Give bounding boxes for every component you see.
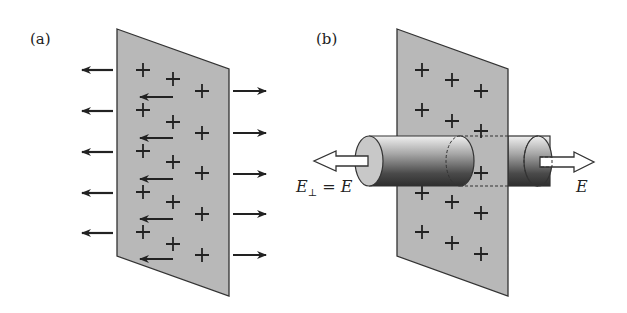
left-field-arrows bbox=[82, 70, 113, 233]
right-field-arrows bbox=[233, 91, 266, 255]
diagram-canvas bbox=[0, 0, 627, 313]
gaussian-cylinder-front bbox=[355, 136, 474, 186]
panel-a-label: (a) bbox=[30, 30, 51, 48]
equals-e: = E bbox=[317, 177, 352, 196]
perp-subscript: ⊥ bbox=[308, 187, 317, 198]
left-field-label: E⊥ = E bbox=[296, 177, 352, 198]
panel-a bbox=[82, 29, 266, 296]
panel-b bbox=[314, 29, 594, 296]
panel-b-label: (b) bbox=[316, 30, 337, 48]
e-symbol: E bbox=[296, 177, 308, 196]
right-field-label: E bbox=[576, 177, 588, 196]
